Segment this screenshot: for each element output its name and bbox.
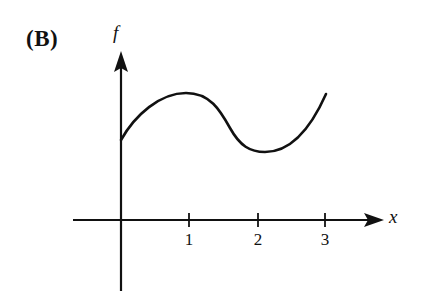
function-curve (121, 93, 326, 152)
plot-area (0, 0, 423, 295)
